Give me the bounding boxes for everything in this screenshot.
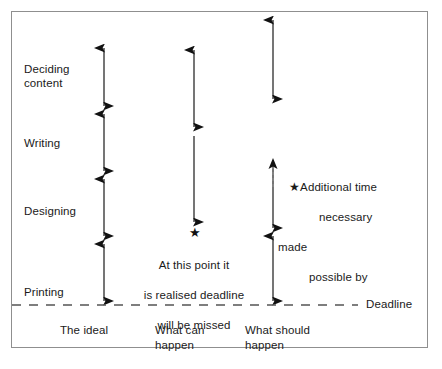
star-icon-shouldhappen: ★ (289, 181, 300, 193)
star-icon-canhappen: ★ (189, 226, 201, 239)
arrow-column-what-should-happen (269, 20, 278, 301)
stage-label-designing: Designing (24, 205, 76, 219)
diagram-canvas: Deciding content Writing Designing Print… (0, 0, 442, 369)
annotation-shouldhappen-line-3: made (278, 240, 424, 255)
annotation-canhappen-line-1: At this point it (124, 258, 264, 273)
annotation-shouldhappen-line-1: ★Additional time (289, 180, 424, 195)
stage-label-writing: Writing (24, 137, 60, 151)
column-caption-the-ideal: The ideal (60, 323, 108, 338)
annotation-what-should-happen: ★Additional time necessary made possible… (289, 165, 424, 300)
annotation-shouldhappen-line-4: possible by (289, 270, 424, 285)
annotation-canhappen-line-3: will be missed (124, 318, 264, 333)
annotation-what-can-happen: At this point it is realised deadline wi… (124, 243, 264, 348)
stage-label-printing: Printing (24, 286, 64, 300)
annotation-shouldhappen-line-2: necessary (289, 210, 424, 225)
stage-label-deciding-content: Deciding content (24, 63, 70, 90)
annotation-shouldhappen-text-1: Additional time (300, 181, 377, 193)
annotation-canhappen-line-2: is realised deadline (124, 288, 264, 303)
